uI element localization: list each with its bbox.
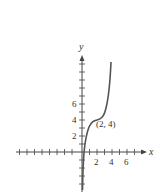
- x-tick-label: 2: [94, 157, 99, 167]
- y-axis-arrow-icon: [80, 55, 85, 61]
- y-tick-label: 6: [72, 99, 77, 109]
- x-axis-label: x: [148, 146, 154, 157]
- point-annotation: (2, 4): [96, 119, 116, 129]
- graph: 2 4 6 x 2 4 6 y (2, 4: [0, 0, 166, 192]
- x-axis-arrow-icon: [141, 150, 147, 155]
- x-tick-label: 4: [109, 157, 114, 167]
- y-tick-label: 2: [72, 131, 77, 141]
- y-tick-label: 4: [72, 115, 77, 125]
- x-tick-label: 6: [124, 157, 129, 167]
- y-axis-label: y: [78, 41, 84, 52]
